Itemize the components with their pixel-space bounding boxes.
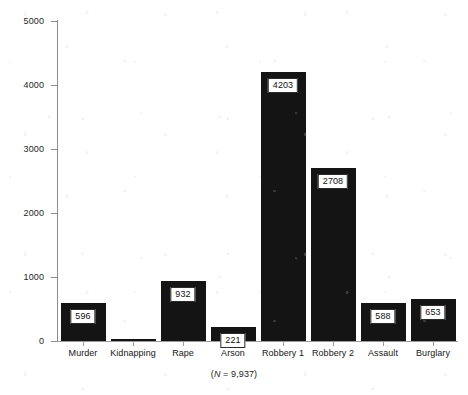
x-axis-tick — [283, 341, 284, 346]
caption-n-symbol: N — [214, 369, 221, 379]
bar — [311, 168, 356, 341]
x-axis-tick-label: Burglary — [416, 348, 450, 358]
y-axis-tick-label: 2000 — [0, 208, 44, 218]
bar-value-label: 4203 — [268, 78, 298, 93]
y-axis-tick-label: 4000 — [0, 80, 44, 90]
x-axis-tick — [183, 341, 184, 346]
x-axis-tick — [83, 341, 84, 346]
x-axis-tick-label: Rape — [172, 348, 194, 358]
x-axis-tick-label: Robbery 2 — [312, 348, 354, 358]
bar-chart-figure: 010002000300040005000 MurderKidnappingRa… — [0, 0, 468, 395]
bar-value-label: 932 — [170, 287, 195, 302]
y-axis-tick — [51, 277, 57, 278]
sample-size-caption: (N = 9,937) — [0, 369, 468, 379]
bar-value-label: 588 — [370, 309, 395, 324]
bar-value-label: 596 — [70, 309, 95, 324]
bar-value-label: 221 — [220, 333, 245, 348]
bar — [111, 339, 156, 341]
y-axis-tick-label: 5000 — [0, 16, 44, 26]
x-axis-tick-label: Arson — [221, 348, 245, 358]
x-axis-tick — [433, 341, 434, 346]
y-axis-tick — [51, 21, 57, 22]
y-axis-tick — [51, 213, 57, 214]
x-axis-tick — [133, 341, 134, 346]
x-axis-tick-label: Robbery 1 — [262, 348, 304, 358]
x-axis-tick-label: Assault — [368, 348, 398, 358]
x-axis-tick — [333, 341, 334, 346]
bar-value-label: 2708 — [318, 174, 348, 189]
caption-suffix: = 9,937) — [221, 369, 258, 379]
x-axis-tick — [383, 341, 384, 346]
y-axis-line — [57, 20, 58, 342]
bar-value-label: 653 — [420, 305, 445, 320]
y-axis-tick — [51, 341, 57, 342]
bar — [261, 72, 306, 341]
y-axis-tick-label: 0 — [0, 336, 44, 346]
y-axis-tick-label: 3000 — [0, 144, 44, 154]
y-axis-tick-label: 1000 — [0, 272, 44, 282]
x-axis-tick-label: Kidnapping — [110, 348, 156, 358]
x-axis-tick-label: Murder — [69, 348, 98, 358]
y-axis-tick — [51, 149, 57, 150]
x-axis-line — [57, 341, 458, 342]
y-axis-tick — [51, 85, 57, 86]
